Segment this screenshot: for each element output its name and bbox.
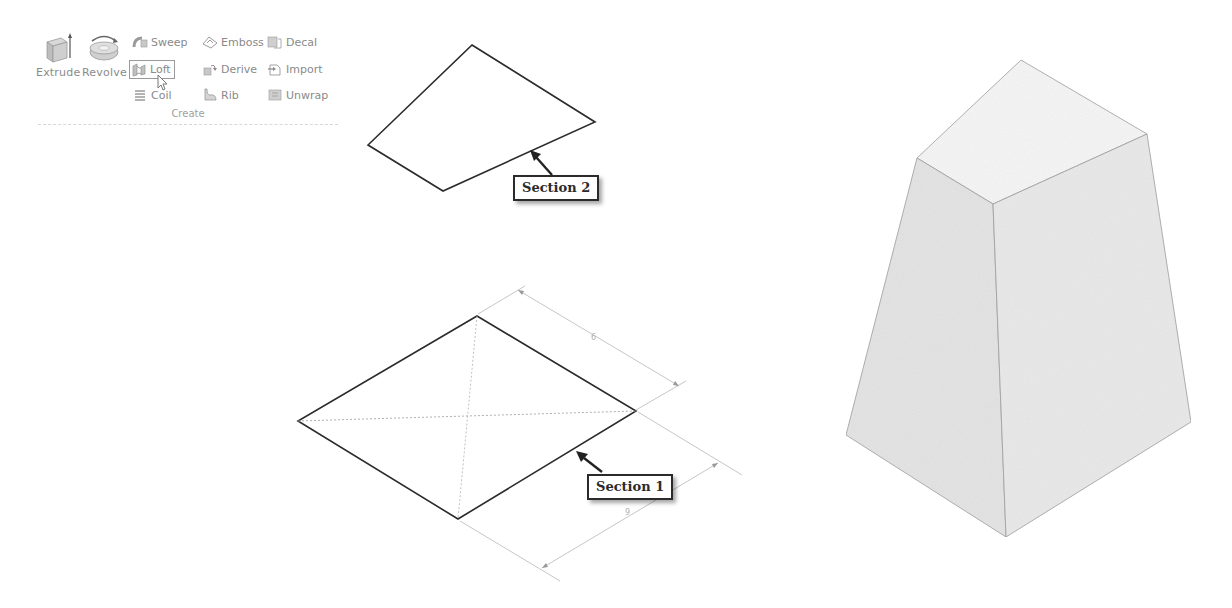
section-1-callout: Section 1	[587, 474, 673, 500]
section-1-leader	[584, 458, 602, 472]
dimension-6	[478, 286, 686, 410]
section-2-callout: Section 2	[513, 175, 599, 201]
section-1-profile	[298, 316, 636, 519]
dimension-9-value: 9	[625, 508, 630, 517]
drawing-canvas	[0, 0, 1232, 608]
section-2-leader	[536, 157, 552, 175]
dimension-6-value: 6	[591, 333, 596, 342]
construction-line	[298, 411, 636, 421]
lofted-solid	[846, 60, 1191, 537]
solid-right-face	[993, 134, 1191, 537]
construction-line	[458, 316, 477, 519]
solid-left-face	[846, 158, 1006, 537]
section-2-profile	[368, 45, 595, 191]
